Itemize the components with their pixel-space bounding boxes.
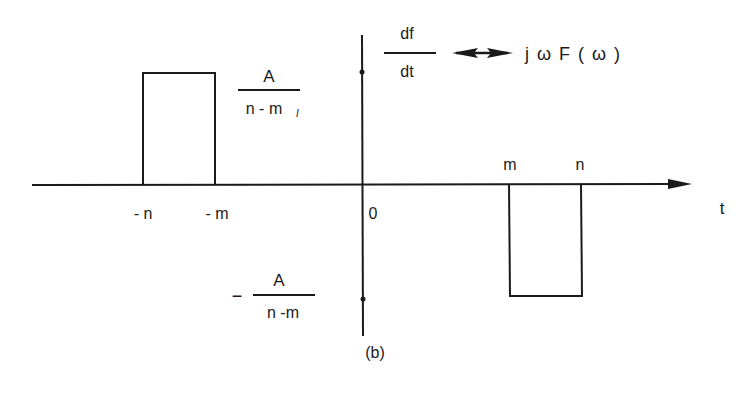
lower-level-denominator: n -m [267,304,299,321]
figure-caption: (b) [365,344,385,361]
lower-level-numerator: A [273,271,285,290]
upper-level-subscript: I [296,108,299,119]
vertical-axis [360,35,366,336]
t-axis-arrow-icon [668,179,692,189]
lower-level-tick [361,297,366,302]
upper-level-numerator: A [263,67,275,86]
derivative-denominator: dt [400,63,414,80]
positive-pulse [143,73,215,185]
upper-level-denominator: n - m [246,100,282,117]
t-axis-label: t [720,199,725,218]
upper-level-label: A n - m I [238,67,300,119]
double-arrow-icon [452,48,513,58]
derivative-equation: df dt j ω F ( ω ) [384,25,622,80]
fourier-transform-expression: j ω F ( ω ) [524,44,622,64]
tick-label-neg-m: - m [205,205,228,222]
tick-label-m: m [503,156,516,173]
lower-level-label: − A n -m [232,271,315,321]
upper-level-tick [360,70,365,75]
derivative-numerator: df [400,25,414,42]
diagram-canvas: - n - m 0 m n t df dt j ω F ( ω ) A n - … [0,0,743,409]
negative-pulse [509,184,582,296]
tick-label-neg-n: - n [134,205,153,222]
origin-label: 0 [369,205,378,222]
lower-level-sign: − [232,286,243,306]
tick-label-n: n [576,156,585,173]
